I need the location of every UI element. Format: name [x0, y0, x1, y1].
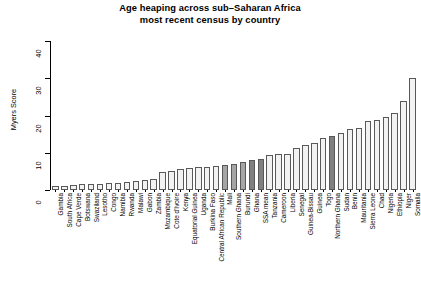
bar — [168, 171, 174, 190]
x-tick-mark — [305, 190, 306, 192]
x-tick-label: Lesotho — [102, 193, 108, 216]
x-tick-label: Senegal — [299, 193, 305, 216]
x-tick-mark — [73, 190, 74, 192]
bar — [115, 183, 121, 190]
x-tick-label: Togo — [326, 193, 332, 207]
x-tick-mark — [243, 190, 244, 192]
y-tick-mark — [45, 116, 50, 117]
x-tick-mark — [377, 190, 378, 192]
chart-title-line-1: Age heaping across sub–Saharan Africa — [0, 3, 420, 15]
x-tick-mark — [216, 190, 217, 192]
bar — [275, 154, 281, 190]
x-tick-mark — [136, 190, 137, 192]
x-tick-mark — [225, 190, 226, 192]
x-tick-mark — [189, 190, 190, 192]
bar — [249, 160, 255, 190]
x-tick-mark — [82, 190, 83, 192]
x-tick-mark — [261, 190, 262, 192]
x-tick-mark — [180, 190, 181, 192]
bar — [320, 138, 326, 190]
x-tick-label: Cameroon — [281, 193, 287, 223]
x-tick-mark — [234, 190, 235, 192]
x-tick-label: Burkina Faso — [210, 193, 216, 231]
bar — [356, 128, 362, 190]
bar — [133, 181, 139, 190]
y-tick-label: 10 — [34, 153, 43, 177]
x-tick-mark — [350, 190, 351, 192]
x-tick-mark — [109, 190, 110, 192]
x-tick-label: Mauritania — [361, 193, 367, 223]
x-tick-label: Rwanda — [129, 193, 135, 216]
bar — [409, 78, 415, 190]
x-tick-label: Guinea — [317, 193, 323, 214]
x-tick-label: Equatorial Guinea — [192, 193, 198, 244]
x-tick-label: Cape Verde — [76, 193, 82, 227]
y-tick-label: 20 — [34, 116, 43, 140]
x-tick-label: Kenya — [183, 193, 189, 211]
x-tick-label: Southern Ghana — [236, 193, 242, 240]
x-tick-label: Northern Ghana — [335, 193, 341, 239]
bar — [383, 117, 389, 190]
x-tick-mark — [154, 190, 155, 192]
y-axis-label: Myers Score — [9, 75, 18, 145]
plot-area — [51, 41, 417, 190]
x-tick-mark — [332, 190, 333, 192]
x-tick-label: Somalia — [415, 193, 421, 216]
bar — [338, 133, 344, 190]
x-tick-mark — [288, 190, 289, 192]
bar — [302, 145, 308, 190]
x-tick-mark — [386, 190, 387, 192]
x-tick-label: Benin — [352, 193, 358, 209]
y-tick-mark — [45, 190, 50, 191]
x-tick-label: Swaziland — [94, 193, 100, 222]
bar — [213, 166, 219, 190]
x-tick-label: Chad — [379, 193, 385, 208]
x-tick-mark — [395, 190, 396, 192]
y-tick-mark — [45, 78, 50, 79]
bar — [258, 159, 264, 190]
x-tick-mark — [252, 190, 253, 192]
x-tick-label: Zambia — [156, 193, 162, 214]
x-tick-label: Congo — [111, 193, 117, 212]
bar — [240, 162, 246, 190]
x-tick-label: Gabon — [147, 193, 153, 212]
bar — [231, 164, 237, 190]
x-tick-mark — [127, 190, 128, 192]
x-tick-label: Tanzania — [272, 193, 278, 219]
x-tick-label: Liberia — [290, 193, 296, 212]
x-tick-mark — [404, 190, 405, 192]
x-tick-mark — [145, 190, 146, 192]
y-tick-mark — [45, 41, 50, 42]
x-tick-label: Burundi — [245, 193, 251, 215]
bar — [266, 155, 272, 190]
chart-title-line-2: most recent census by country — [0, 15, 420, 27]
x-tick-mark — [413, 190, 414, 192]
x-tick-mark — [279, 190, 280, 192]
bar — [204, 167, 210, 190]
x-tick-label: Ethiopia — [397, 193, 403, 216]
x-tick-mark — [198, 190, 199, 192]
bar — [391, 113, 397, 190]
x-tick-mark — [323, 190, 324, 192]
x-tick-mark — [64, 190, 65, 192]
x-tick-label: Mali — [227, 193, 233, 205]
bar — [150, 179, 156, 190]
y-tick-label: 30 — [34, 79, 43, 103]
x-tick-mark — [359, 190, 360, 192]
x-tick-label: Cote d'Ivoire — [174, 193, 180, 229]
y-tick-label: 40 — [34, 42, 43, 66]
bar — [159, 172, 165, 190]
y-tick-mark — [45, 153, 50, 154]
bar — [177, 169, 183, 190]
bar — [400, 101, 406, 190]
x-tick-mark — [100, 190, 101, 192]
x-tick-label: Botswana — [85, 193, 91, 221]
bar — [284, 154, 290, 190]
x-tick-label: SSA mean — [263, 193, 269, 223]
x-tick-label: Ghana — [254, 193, 260, 212]
x-tick-mark — [118, 190, 119, 192]
x-tick-mark — [91, 190, 92, 192]
bar — [186, 168, 192, 190]
x-tick-label: Central African Republic — [219, 193, 225, 262]
bar — [329, 136, 335, 190]
